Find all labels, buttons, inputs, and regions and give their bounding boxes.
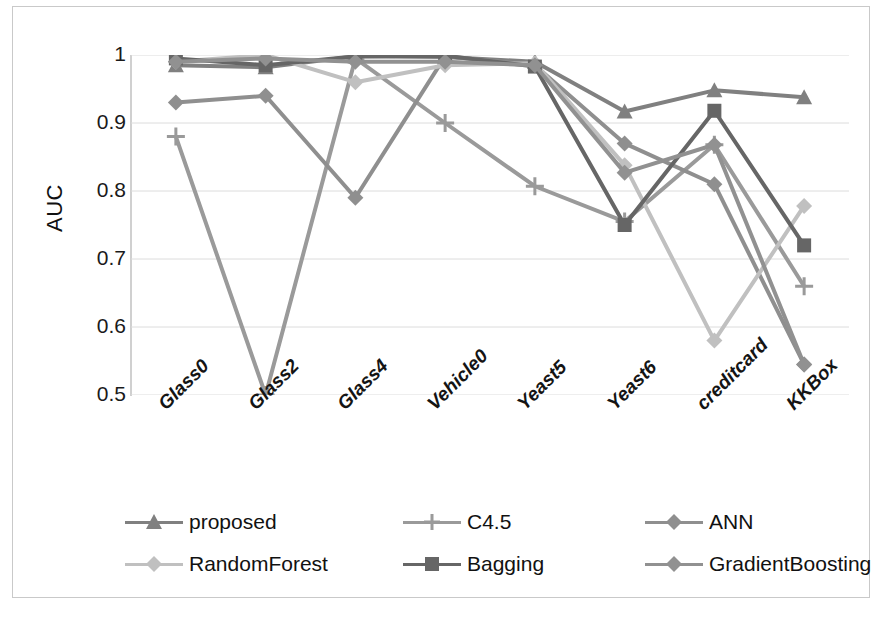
- legend-swatch-square-icon: [403, 555, 461, 573]
- chart-svg: [131, 55, 849, 395]
- series-line: [176, 56, 804, 364]
- legend-swatch-diamond-icon: [125, 555, 183, 573]
- data-point-marker: [707, 104, 721, 118]
- legend-label: proposed: [189, 510, 277, 534]
- data-point-marker: [618, 218, 632, 232]
- y-tick-label: 0.8: [66, 179, 126, 200]
- data-point-marker: [425, 557, 439, 571]
- data-point-marker: [666, 514, 682, 530]
- data-point-marker: [168, 95, 184, 111]
- legend-swatch-diamond-icon: [645, 513, 703, 531]
- legend-item-proposed[interactable]: proposed: [125, 507, 277, 537]
- data-point-marker: [706, 176, 722, 192]
- figure-caption: [14, 604, 714, 630]
- plot-area: [131, 55, 849, 395]
- data-point-marker: [797, 238, 811, 252]
- legend-swatch-plus-icon: [403, 513, 461, 531]
- data-point-marker: [146, 556, 162, 572]
- figure-page: 10.90.80.70.60.5 AUC Glass0Glass2Glass4V…: [0, 0, 895, 635]
- legend-label: GradientBoosting: [709, 552, 871, 576]
- legend-item-randomforest[interactable]: RandomForest: [125, 549, 328, 579]
- y-tick-label: 0.7: [66, 247, 126, 268]
- y-tick-label: 0.9: [66, 111, 126, 132]
- figure-frame: 10.90.80.70.60.5 AUC Glass0Glass2Glass4V…: [12, 6, 870, 598]
- chart-legend: proposedC4.5ANNRandomForestBaggingGradie…: [125, 507, 825, 585]
- data-point-marker: [666, 556, 682, 572]
- legend-label: RandomForest: [189, 552, 328, 576]
- data-point-marker: [167, 128, 185, 146]
- y-tick-label: 1: [66, 43, 126, 64]
- legend-label: Bagging: [467, 552, 544, 576]
- legend-item-bagging[interactable]: Bagging: [403, 549, 544, 579]
- legend-label: ANN: [709, 510, 753, 534]
- legend-swatch-triangle-icon: [125, 513, 183, 531]
- data-point-marker: [146, 514, 162, 529]
- legend-item-ann[interactable]: ANN: [645, 507, 753, 537]
- y-axis-title: AUC: [42, 148, 68, 268]
- legend-item-c4-5[interactable]: C4.5: [403, 507, 511, 537]
- series-ann: [168, 55, 812, 372]
- y-tick-label: 0.6: [66, 315, 126, 336]
- legend-swatch-diamond-icon: [645, 555, 703, 573]
- legend-label: C4.5: [467, 510, 511, 534]
- x-axis-tick-labels: Glass0Glass2Glass4Vehicle0Yeast5Yeast6cr…: [131, 399, 849, 499]
- legend-item-gradientboosting[interactable]: GradientBoosting: [645, 549, 871, 579]
- y-tick-label: 0.5: [66, 383, 126, 404]
- data-point-marker: [424, 514, 440, 530]
- y-axis-tick-labels: 10.90.80.70.60.5: [58, 7, 126, 635]
